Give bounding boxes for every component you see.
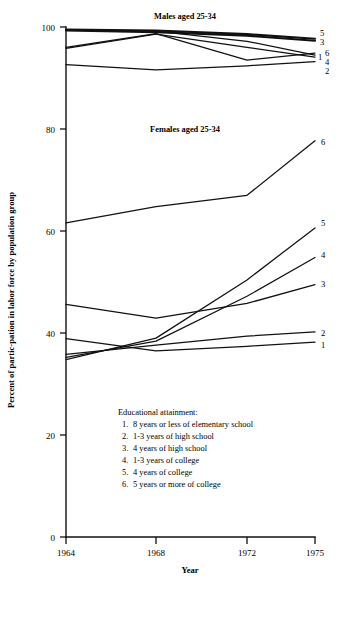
legend-text-4: 1-3 years of college xyxy=(133,456,200,465)
series-label-females-6: 6 xyxy=(321,137,326,147)
legend-text-6: 5 years or more of college xyxy=(133,480,221,489)
series-label-males-3: 3 xyxy=(320,37,324,47)
series-line-females-1 xyxy=(66,339,315,351)
x-axis-title: Year xyxy=(181,565,198,575)
y-tick-label-0: 0 xyxy=(51,533,56,543)
x-tick-label-1972: 1972 xyxy=(238,548,256,558)
legend-num-4: 4. xyxy=(122,456,128,465)
legend-text-1: 8 years or less of elementary school xyxy=(133,420,254,429)
series-group-males xyxy=(66,30,315,70)
series-label-males-1: 1 xyxy=(318,52,322,62)
series-label-females-3: 3 xyxy=(321,279,325,289)
series-group-females xyxy=(66,141,315,360)
legend: Educational attainment: 1. 8 years or le… xyxy=(118,408,254,489)
legend-text-5: 4 years of college xyxy=(133,468,193,477)
y-tick-label-80: 80 xyxy=(46,125,56,135)
legend-num-5: 5. xyxy=(122,468,128,477)
y-tick-label-20: 20 xyxy=(46,431,56,441)
legend-text-3: 4 years of high school xyxy=(133,444,208,453)
chart-svg: 100 80 60 40 20 0 1964 1968 1972 1975 Ye… xyxy=(0,0,342,617)
panel-title-females: Females aged 25-34 xyxy=(150,125,221,134)
y-tick-label-60: 60 xyxy=(46,227,56,237)
series-line-females-5 xyxy=(66,228,315,360)
legend-num-2: 2. xyxy=(122,432,128,441)
legend-text-2: 1-3 years of high school xyxy=(133,432,215,441)
series-line-females-6 xyxy=(66,141,315,223)
series-labels-females: 6 5 4 3 2 1 xyxy=(321,137,326,350)
panel-title-males: Males aged 25-34 xyxy=(154,12,217,21)
series-line-females-3 xyxy=(66,285,315,319)
y-axis-ticks xyxy=(60,27,66,537)
legend-num-1: 1. xyxy=(122,420,128,429)
x-tick-label-1968: 1968 xyxy=(147,548,166,558)
series-label-females-1: 1 xyxy=(321,340,325,350)
legend-heading: Educational attainment: xyxy=(118,408,198,417)
legend-num-3: 3. xyxy=(122,444,128,453)
series-line-males-2 xyxy=(66,62,315,70)
series-label-females-5: 5 xyxy=(321,218,325,228)
series-label-females-2: 2 xyxy=(321,328,325,338)
x-axis-ticks xyxy=(66,537,315,544)
y-tick-label-100: 100 xyxy=(42,23,56,33)
y-axis-title: Percent of partic-pation in labor force … xyxy=(6,192,16,408)
y-tick-label-40: 40 xyxy=(46,329,56,339)
series-labels-males: 5 3 1 6 4 2 xyxy=(318,28,330,76)
x-tick-label-1964: 1964 xyxy=(57,548,76,558)
x-tick-label-1975: 1975 xyxy=(306,548,325,558)
series-label-females-4: 4 xyxy=(321,250,326,260)
series-label-males-2: 2 xyxy=(325,66,329,76)
series-line-females-4 xyxy=(66,258,315,358)
legend-num-6: 6. xyxy=(122,480,128,489)
chart-figure: 100 80 60 40 20 0 1964 1968 1972 1975 Ye… xyxy=(0,0,342,617)
